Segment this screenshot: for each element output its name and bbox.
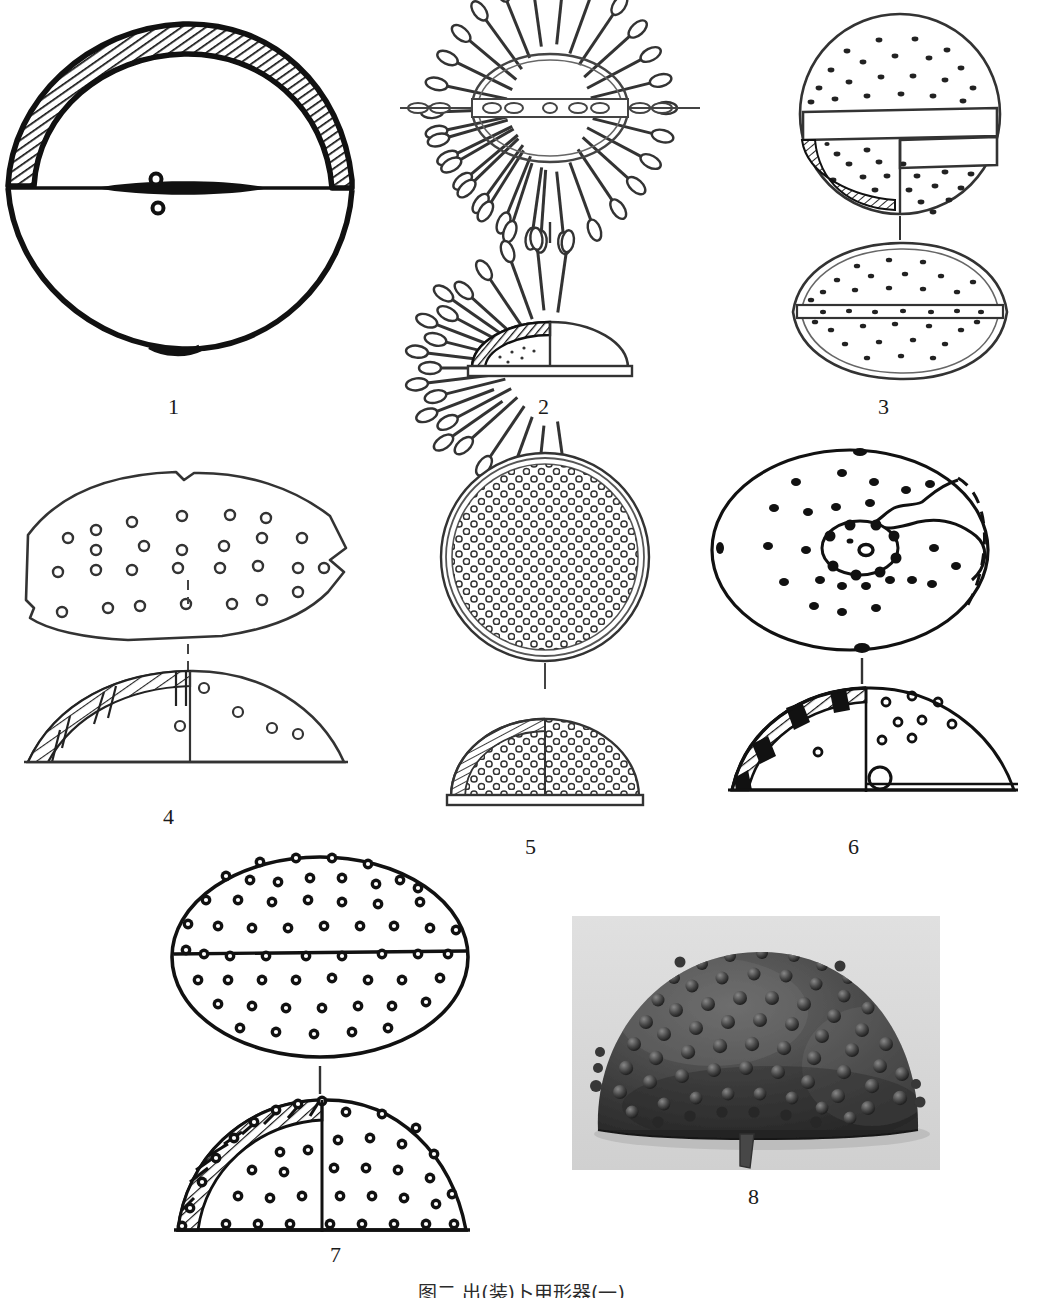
figure-5 [395, 445, 695, 835]
figure-2-label: 2 [538, 396, 549, 418]
plate-caption: 图二 出(装)卜甲形器(一) [0, 1280, 1043, 1298]
figure-4 [8, 440, 358, 810]
figure-6-label: 6 [848, 836, 859, 858]
figure-4-label: 4 [163, 806, 174, 828]
figure-7-section-view [174, 1096, 470, 1232]
figure-6-section-view [728, 688, 1018, 792]
figure-6 [690, 440, 1030, 830]
figure-7 [130, 852, 530, 1252]
figure-3-label: 3 [878, 396, 889, 418]
figure-1-lower-profile [8, 188, 352, 349]
figure-6-plan-view [712, 448, 988, 653]
figure-1-label: 1 [168, 396, 179, 418]
figure-4-section-view [24, 671, 348, 762]
figure-7-plan-view [172, 853, 468, 1057]
figure-2-plan-view [400, 0, 700, 255]
figure-8-photograph [572, 916, 940, 1170]
figure-7-label: 7 [330, 1244, 341, 1266]
figure-5-plan-view [441, 453, 649, 661]
figure-1 [0, 8, 370, 388]
figure-3 [775, 4, 1025, 389]
figure-5-section-view [447, 719, 643, 805]
figure-3-plan-view [800, 14, 1000, 214]
figure-3-section-view [793, 243, 1007, 379]
figure-8-label: 8 [748, 1186, 759, 1208]
figure-4-plan-view [26, 472, 346, 640]
figure-2 [400, 0, 700, 390]
